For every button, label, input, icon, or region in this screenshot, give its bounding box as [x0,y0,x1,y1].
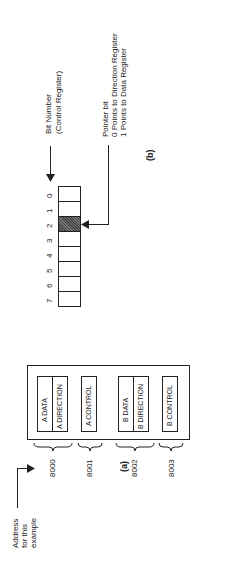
bit-label-0: 0 [45,194,54,198]
b-divider [133,376,134,432]
address-8000: 8000 [48,459,57,477]
bit-cell-3 [58,231,81,247]
bit-cell-2-pointer [58,216,81,232]
address-8002: 8002 [130,459,139,477]
arrow-down-icon [46,174,55,182]
brace-8002-icon [115,442,155,452]
figure-b-label: (b) [145,150,155,162]
bit-number-caption-line1: Bit Number [44,94,53,134]
bit-cell-5 [58,261,81,277]
pointer-caption-line2: 0 Points to Direction Register [110,33,119,137]
b-data-label: B DATA [122,398,130,422]
bit-cell-7 [58,291,81,307]
pointer-caption-line1: Pointer bit [101,101,110,137]
address-caption-line2: for this [20,524,29,548]
bit-cell-0 [58,186,81,202]
brace-8000-icon [33,442,73,452]
arrow-right-icon [27,464,35,473]
bit-label-2: 2 [45,224,54,228]
a-control-label: A CONTROL [85,386,93,426]
bit-cell-1 [58,201,81,217]
arrow-left-icon [81,220,89,229]
b-direction-label: B DIRECTION [137,384,145,429]
address-8001: 8001 [85,459,94,477]
brace-8001-icon [77,442,103,452]
pointer-leader-vertical [108,145,109,225]
bit-number-caption-line2: (Control Register) [54,71,63,134]
a-divider [52,376,53,432]
bit-label-7: 7 [45,299,54,303]
bit-number-arrow-shaft [50,146,51,176]
bit-cell-4 [58,246,81,262]
bit-label-1: 1 [45,209,54,213]
bit-label-4: 4 [45,254,54,258]
figure-a-label: (a) [119,461,129,472]
bit-label-5: 5 [45,269,54,273]
address-caption-line3: example [29,518,38,548]
address-caption-line1: Address [11,519,20,548]
address-arrow-vertical [17,468,18,508]
a-direction-label: A DIRECTION [56,384,64,429]
bit-label-6: 6 [45,284,54,288]
brace-8003-icon [158,442,184,452]
address-8003: 8003 [167,459,176,477]
bit-cell-6 [58,276,81,292]
bit-label-3: 3 [45,239,54,243]
pointer-leader-horizontal [88,224,109,225]
pointer-caption-line3: 1 Points to Data Register [119,48,128,137]
b-control-label: B CONTROL [166,385,174,426]
a-data-label: A DATA [41,398,49,422]
